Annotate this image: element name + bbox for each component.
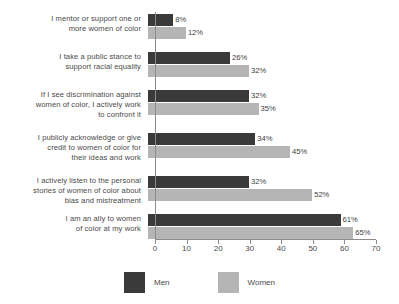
category-group: If I see discrimination against women of… (0, 90, 399, 121)
y-axis-line (155, 12, 156, 240)
bar-men[interactable] (148, 90, 249, 102)
x-tick-label: 30 (245, 244, 254, 254)
category-label: I publicly acknowledge or give credit to… (0, 133, 148, 164)
bar-value-label: 35% (261, 103, 276, 115)
bar-women[interactable] (148, 103, 259, 115)
category-label: I mentor or support one or more women of… (0, 14, 148, 34)
category-group: I actively listen to the personal storie… (0, 176, 399, 207)
bar-women[interactable] (148, 189, 312, 201)
bar-row-men[interactable]: 32% (148, 176, 399, 188)
x-axis-line (155, 239, 376, 240)
bar-value-label: 26% (232, 52, 247, 64)
bar-men[interactable] (148, 133, 255, 145)
chart-legend: MenWomen (0, 272, 399, 293)
bar-chart: I mentor or support one or more women of… (0, 0, 399, 304)
legend-swatch-women (218, 272, 239, 293)
bar-row-men[interactable]: 61% (148, 214, 399, 226)
bar-pair: 26%32% (148, 52, 399, 78)
bar-pair: 8%12% (148, 14, 399, 40)
bar-row-women[interactable]: 12% (148, 27, 399, 39)
x-tick-label: 70 (372, 244, 381, 254)
bar-row-women[interactable]: 52% (148, 189, 399, 201)
bar-men[interactable] (148, 52, 230, 64)
category-group: I am an ally to women of color at my wor… (0, 214, 399, 240)
legend-swatch-men (124, 272, 145, 293)
bar-pair: 32%35% (148, 90, 399, 116)
bar-value-label: 32% (251, 90, 266, 102)
category-label: I take a public stance to support racial… (0, 52, 148, 72)
legend-label: Men (154, 278, 170, 287)
category-group: I take a public stance to support racial… (0, 52, 399, 78)
bar-women[interactable] (148, 227, 353, 239)
bar-value-label: 32% (251, 65, 266, 77)
category-label: I am an ally to women of color at my wor… (0, 214, 148, 234)
bar-row-men[interactable]: 34% (148, 133, 399, 145)
bar-men[interactable] (148, 14, 173, 26)
bar-row-men[interactable]: 8% (148, 14, 399, 26)
bar-pair: 32%52% (148, 176, 399, 202)
bar-value-label: 8% (175, 14, 186, 26)
bar-pair: 61%65% (148, 214, 399, 240)
bar-row-men[interactable]: 26% (148, 52, 399, 64)
bar-row-men[interactable]: 32% (148, 90, 399, 102)
legend-item-women[interactable]: Women (218, 272, 275, 293)
category-label: I actively listen to the personal storie… (0, 176, 148, 207)
x-tick-label: 50 (308, 244, 317, 254)
bar-men[interactable] (148, 214, 341, 226)
x-tick-label: 0 (153, 244, 157, 254)
x-tick-label: 20 (214, 244, 223, 254)
bar-women[interactable] (148, 146, 290, 158)
bar-row-women[interactable]: 45% (148, 146, 399, 158)
legend-label: Women (248, 278, 275, 287)
bar-row-women[interactable]: 65% (148, 227, 399, 239)
bar-value-label: 12% (188, 27, 203, 39)
bar-men[interactable] (148, 176, 249, 188)
bar-value-label: 52% (314, 189, 329, 201)
bar-women[interactable] (148, 27, 186, 39)
bar-pair: 34%45% (148, 133, 399, 159)
x-tick-label: 60 (340, 244, 349, 254)
bar-value-label: 61% (343, 214, 358, 226)
bar-value-label: 34% (257, 133, 272, 145)
bar-row-women[interactable]: 32% (148, 65, 399, 77)
legend-item-men[interactable]: Men (124, 272, 170, 293)
bar-row-women[interactable]: 35% (148, 103, 399, 115)
bar-value-label: 65% (355, 227, 370, 239)
category-group: I mentor or support one or more women of… (0, 14, 399, 40)
x-tick-label: 10 (182, 244, 191, 254)
category-group: I publicly acknowledge or give credit to… (0, 133, 399, 164)
bar-value-label: 32% (251, 176, 266, 188)
bar-women[interactable] (148, 65, 249, 77)
bar-value-label: 45% (292, 146, 307, 158)
plot-area: I mentor or support one or more women of… (0, 0, 399, 252)
category-label: If I see discrimination against women of… (0, 90, 148, 121)
x-tick-label: 40 (277, 244, 286, 254)
